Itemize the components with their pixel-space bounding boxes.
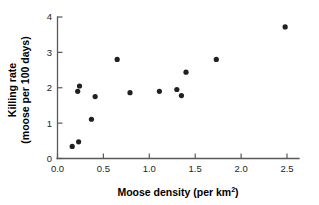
data-point <box>70 144 75 149</box>
data-point <box>183 70 188 75</box>
scatter-plot-figure: 01234 0.00.51.01.52.02.5 Killing rate (m… <box>0 0 319 205</box>
y-axis-title-line1: Killing rate <box>6 63 18 117</box>
data-points <box>70 24 288 149</box>
data-point <box>179 93 184 98</box>
data-point <box>89 117 94 122</box>
x-tick-label: 2.0 <box>234 163 247 174</box>
x-axis-ticks: 0.00.51.01.52.02.5 <box>51 154 294 175</box>
x-axis-title: Moose density (per km2) <box>117 186 238 198</box>
x-tick-label: 2.5 <box>280 163 293 174</box>
x-axis-title-tail: ) <box>235 186 239 198</box>
plot-canvas: 01234 0.00.51.01.52.02.5 Killing rate (m… <box>0 0 319 205</box>
y-axis-title-line2: (moose per 100 days) <box>19 36 31 143</box>
y-tick-label: 1 <box>47 118 52 129</box>
data-point <box>76 139 81 144</box>
x-axis-title-main: Moose density (per km <box>117 186 231 198</box>
data-point <box>93 94 98 99</box>
x-tick-label: 0.0 <box>51 163 64 174</box>
data-point <box>75 89 80 94</box>
y-axis-title: Killing rate (moose per 100 days) <box>6 36 31 143</box>
data-point <box>77 83 82 88</box>
data-point <box>127 90 132 95</box>
data-point <box>115 57 120 62</box>
data-point <box>157 89 162 94</box>
y-tick-label: 3 <box>47 47 52 58</box>
data-point <box>214 57 219 62</box>
x-tick-label: 1.0 <box>143 163 156 174</box>
data-point <box>283 24 288 29</box>
data-point <box>174 87 179 92</box>
x-tick-label: 0.5 <box>97 163 110 174</box>
y-tick-label: 2 <box>47 82 52 93</box>
y-axis-ticks: 01234 <box>47 11 63 164</box>
x-tick-label: 1.5 <box>189 163 202 174</box>
y-tick-label: 4 <box>47 11 52 22</box>
